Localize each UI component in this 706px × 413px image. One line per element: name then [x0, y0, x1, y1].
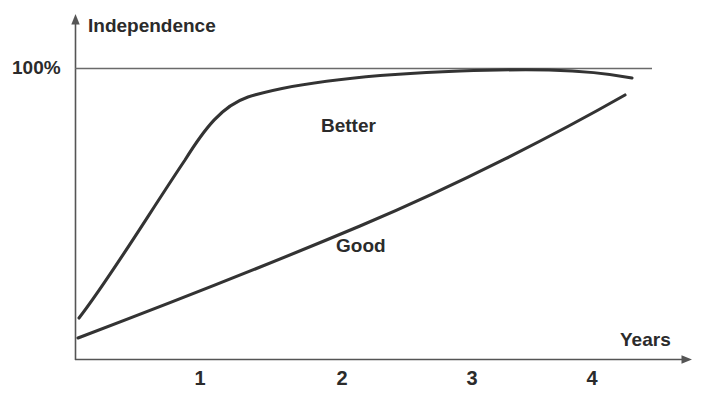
- series-label-better: Better: [321, 116, 376, 135]
- x-axis-tick-label-1: 1: [187, 368, 213, 388]
- series-label-good: Good: [336, 236, 386, 255]
- y-axis: [71, 14, 79, 360]
- chart-canvas: [0, 0, 706, 413]
- series-curve-better: [79, 70, 632, 318]
- x-axis-tick-label-4: 4: [579, 368, 605, 388]
- x-axis-title: Years: [620, 330, 671, 349]
- chart-figure: Independence 100% Years Better Good 1 2 …: [0, 0, 706, 413]
- x-axis-tick-label-3: 3: [459, 368, 485, 388]
- x-axis: [75, 355, 692, 364]
- y-axis-tick-label-100-percent: 100%: [12, 58, 61, 77]
- y-axis-title: Independence: [88, 16, 216, 35]
- x-axis-tick-label-2: 2: [329, 368, 355, 388]
